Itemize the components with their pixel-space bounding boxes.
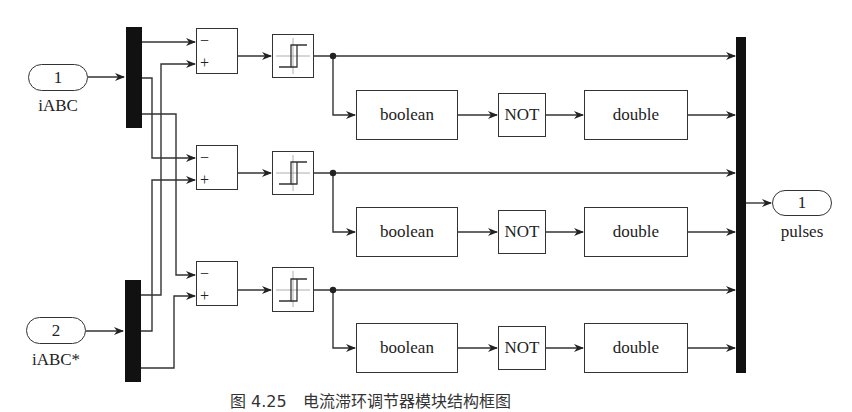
outport-1-label: pulses bbox=[772, 222, 832, 242]
relay-block-1[interactable] bbox=[272, 34, 314, 78]
minus-sign: − bbox=[200, 266, 209, 282]
plus-sign: + bbox=[200, 288, 209, 304]
outport-1-number: 1 bbox=[798, 193, 807, 213]
not-block-3[interactable]: NOT bbox=[498, 326, 546, 370]
boolean-label: boolean bbox=[380, 338, 434, 358]
not-label: NOT bbox=[505, 222, 540, 242]
boolean-label: boolean bbox=[380, 105, 434, 125]
boolean-convert-block-2[interactable]: boolean bbox=[356, 207, 458, 257]
boolean-convert-block-3[interactable]: boolean bbox=[356, 323, 458, 373]
relay-block-2[interactable] bbox=[272, 151, 314, 195]
boolean-convert-block-1[interactable]: boolean bbox=[356, 90, 458, 140]
not-block-1[interactable]: NOT bbox=[498, 93, 546, 137]
junction-dot bbox=[330, 170, 336, 176]
mux-block[interactable] bbox=[736, 37, 746, 373]
plus-sign: + bbox=[200, 172, 209, 188]
double-label: double bbox=[613, 338, 659, 358]
inport-2-number: 2 bbox=[52, 321, 61, 341]
double-label: double bbox=[613, 222, 659, 242]
inport-1-label: iABC bbox=[28, 96, 88, 116]
inport-1-number: 1 bbox=[54, 68, 63, 88]
minus-sign: − bbox=[200, 33, 209, 49]
junction-dot bbox=[330, 287, 336, 293]
minus-sign: − bbox=[200, 150, 209, 166]
sum-block-2[interactable]: − + bbox=[196, 145, 238, 190]
sum-block-3[interactable]: − + bbox=[196, 261, 238, 306]
outport-1[interactable]: 1 bbox=[772, 190, 832, 216]
figure-caption: 图 4.25 电流滞环调节器模块结构框图 bbox=[230, 388, 511, 412]
not-label: NOT bbox=[505, 105, 540, 125]
boolean-label: boolean bbox=[380, 222, 434, 242]
inport-2[interactable]: 2 bbox=[26, 317, 86, 344]
not-label: NOT bbox=[505, 338, 540, 358]
sum-block-1[interactable]: − + bbox=[196, 28, 238, 74]
double-convert-block-1[interactable]: double bbox=[584, 90, 688, 140]
not-block-2[interactable]: NOT bbox=[498, 210, 546, 254]
demux-block-2[interactable] bbox=[125, 280, 141, 382]
inport-2-label: iABC* bbox=[26, 350, 86, 370]
junction-dot bbox=[330, 53, 336, 59]
double-convert-block-3[interactable]: double bbox=[584, 323, 688, 373]
plus-sign: + bbox=[200, 55, 209, 71]
inport-1[interactable]: 1 bbox=[28, 64, 88, 91]
double-label: double bbox=[613, 105, 659, 125]
double-convert-block-2[interactable]: double bbox=[584, 207, 688, 257]
demux-block-1[interactable] bbox=[126, 27, 142, 128]
relay-block-3[interactable] bbox=[272, 267, 314, 312]
